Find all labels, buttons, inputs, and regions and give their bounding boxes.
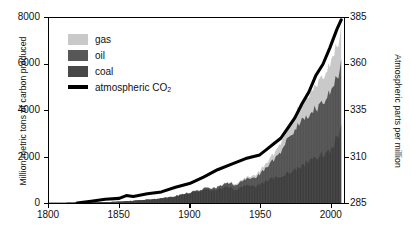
legend-item-coal: coal [68, 64, 171, 78]
x-tick-1950: 1950 [240, 209, 280, 220]
legend-swatch-oil [68, 50, 88, 61]
y-tick-right-310: 310 [350, 151, 384, 162]
tickmark-right-335 [345, 110, 349, 111]
legend-label-oil: oil [95, 50, 105, 61]
legend-label-coal: coal [95, 66, 113, 77]
y-tick-right-360: 360 [350, 57, 384, 68]
y-tick-right-335: 335 [350, 104, 384, 115]
x-tick-1900: 1900 [169, 209, 209, 220]
tickmark-right-285 [345, 203, 349, 204]
legend-item-oil: oil [68, 48, 171, 62]
legend-line-co2 [68, 85, 88, 88]
y-tick-left-0: 0 [6, 197, 40, 208]
tickmark-right-385 [345, 17, 349, 18]
legend-swatch-gas [68, 34, 88, 45]
y-axis-right-title: Atmospheric parts per million [393, 26, 403, 196]
y-tick-right-385: 385 [350, 11, 384, 22]
tickmark-right-310 [345, 157, 349, 158]
y-tick-left-6000: 6000 [6, 57, 40, 68]
chart-legend: gas oil coal atmospheric CO2 [68, 32, 171, 96]
x-tick-2000: 2000 [311, 209, 351, 220]
tickmark-x-1800 [48, 204, 49, 208]
y-tick-right-285: 285 [350, 197, 384, 208]
tickmark-x-2000 [331, 204, 332, 208]
legend-item-gas: gas [68, 32, 171, 46]
tickmark-x-1850 [119, 204, 120, 208]
legend-label-gas: gas [95, 34, 111, 45]
x-tick-1800: 1800 [28, 209, 68, 220]
chart-figure: Million metric tons of carbon produced A… [0, 0, 411, 231]
tickmark-x-1900 [189, 204, 190, 208]
legend-label-co2: atmospheric CO2 [95, 82, 171, 93]
x-tick-1850: 1850 [99, 209, 139, 220]
y-tick-left-2000: 2000 [6, 151, 40, 162]
legend-swatch-coal [68, 66, 88, 77]
legend-item-co2: atmospheric CO2 [68, 80, 171, 94]
tickmark-x-1950 [260, 204, 261, 208]
y-tick-left-8000: 8000 [6, 11, 40, 22]
y-tick-left-4000: 4000 [6, 104, 40, 115]
tickmark-right-360 [345, 64, 349, 65]
